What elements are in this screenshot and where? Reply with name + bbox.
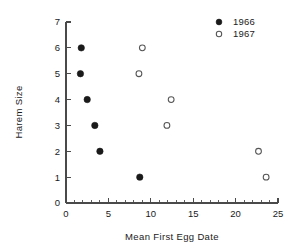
data-point-1966 bbox=[77, 71, 83, 77]
series-1966 bbox=[77, 45, 143, 181]
x-tick-label: 5 bbox=[106, 208, 111, 219]
y-tick-label: 7 bbox=[55, 16, 60, 27]
legend-label-1967: 1967 bbox=[233, 28, 255, 39]
data-point-1966 bbox=[137, 174, 143, 180]
data-point-1967 bbox=[263, 174, 269, 180]
data-point-1967 bbox=[139, 45, 145, 51]
data-point-1967 bbox=[256, 148, 262, 154]
y-tick-label: 5 bbox=[55, 68, 60, 79]
data-point-1967 bbox=[136, 71, 142, 77]
x-tick-label: 0 bbox=[63, 208, 68, 219]
x-tick-label: 10 bbox=[146, 208, 157, 219]
plot-canvas: 0510152025 01234567 19661967 Mean First … bbox=[0, 0, 302, 249]
legend-label-1966: 1966 bbox=[233, 16, 255, 27]
legend-marker-1966 bbox=[216, 19, 222, 25]
y-tick-label: 4 bbox=[55, 94, 60, 105]
y-axis-title: Harem Size bbox=[13, 85, 24, 138]
series-1967 bbox=[136, 45, 269, 180]
data-points-group bbox=[77, 45, 269, 181]
y-axis-tick-labels: 01234567 bbox=[55, 16, 60, 208]
data-point-1967 bbox=[168, 97, 174, 103]
y-tick-label: 6 bbox=[55, 42, 60, 53]
y-tick-label: 1 bbox=[55, 172, 60, 183]
x-tick-label: 15 bbox=[188, 208, 199, 219]
x-tick-label: 20 bbox=[230, 208, 241, 219]
data-point-1966 bbox=[92, 122, 98, 128]
scatter-plot-figure: 0510152025 01234567 19661967 Mean First … bbox=[0, 0, 302, 249]
chart-legend: 19661967 bbox=[216, 16, 255, 39]
axes-group bbox=[66, 22, 278, 203]
y-tick-label: 0 bbox=[55, 197, 60, 208]
legend-marker-1967 bbox=[216, 31, 221, 36]
x-axis-ticks bbox=[66, 198, 278, 203]
y-tick-label: 2 bbox=[55, 146, 60, 157]
data-point-1966 bbox=[97, 148, 103, 154]
data-point-1966 bbox=[84, 96, 90, 102]
x-tick-label: 25 bbox=[273, 208, 284, 219]
y-axis-ticks bbox=[66, 22, 71, 203]
x-axis-tick-labels: 0510152025 bbox=[63, 208, 283, 219]
data-point-1966 bbox=[78, 45, 84, 51]
y-tick-label: 3 bbox=[55, 120, 60, 131]
x-axis-title: Mean First Egg Date bbox=[125, 231, 219, 242]
data-point-1967 bbox=[164, 123, 170, 129]
